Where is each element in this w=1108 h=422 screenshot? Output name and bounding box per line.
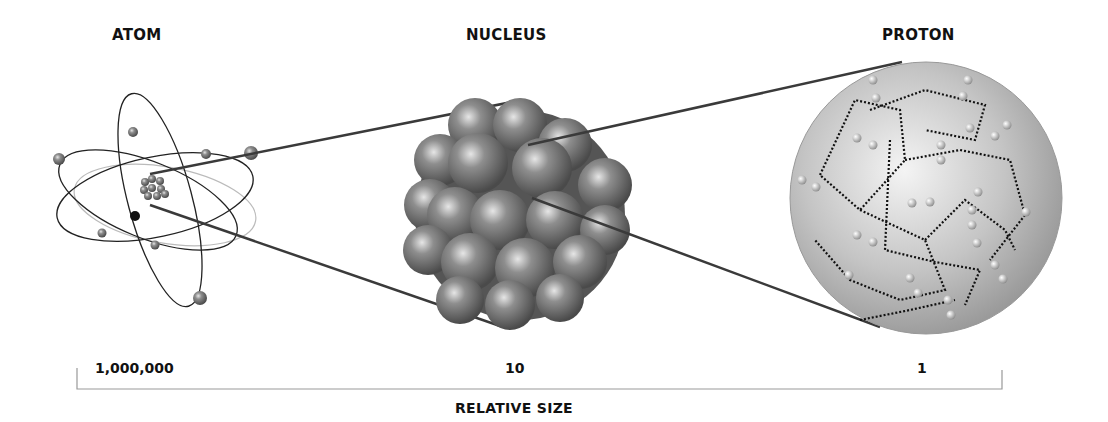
relative-size-bracket (77, 368, 1002, 389)
proton-size-value: 1 (917, 360, 927, 376)
electron-icon (98, 229, 107, 238)
nucleus-size-value: 10 (505, 360, 524, 376)
electron-icon (201, 149, 211, 159)
electron-icon (53, 153, 65, 165)
atom-scale-diagram (0, 0, 1108, 422)
relative-size-label: RELATIVE SIZE (455, 400, 573, 416)
atom-nucleus-icon (140, 175, 169, 200)
electron-icon (128, 127, 138, 137)
nucleus-illustration (403, 98, 632, 330)
atom-size-value: 1,000,000 (95, 360, 174, 376)
atom-illustration (46, 85, 263, 314)
electron-icon (151, 241, 160, 250)
electron-icon (193, 291, 207, 305)
proton-illustration (790, 62, 1062, 334)
electron-icon (130, 211, 140, 221)
